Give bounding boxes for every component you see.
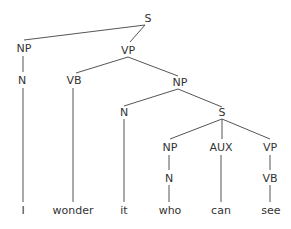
word-who: who (159, 204, 182, 217)
word-see: see (261, 204, 280, 217)
node-np2: NP (173, 76, 188, 89)
node-n1: N (18, 74, 26, 87)
node-s2: S (219, 106, 226, 119)
word-it: it (120, 204, 127, 217)
node-vp1: VP (121, 44, 135, 57)
node-np1: NP (17, 42, 32, 55)
node-s-root: S (145, 12, 152, 25)
tree-edges (0, 0, 291, 229)
word-wonder: wonder (53, 204, 94, 217)
node-n2: N (120, 106, 128, 119)
node-np3: NP (163, 141, 178, 154)
node-vb2: VB (262, 172, 277, 185)
word-can: can (211, 204, 231, 217)
word-i: I (21, 204, 24, 217)
node-aux: AUX (209, 141, 232, 154)
node-n3: N (165, 172, 173, 185)
node-vb1: VB (66, 74, 81, 87)
node-vp2: VP (263, 141, 277, 154)
